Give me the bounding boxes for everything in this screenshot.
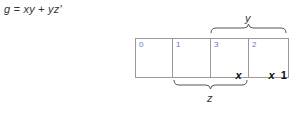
karnaugh-map: 0 1 3 x 2 x 1: [135, 38, 289, 78]
cell-index: 0: [139, 40, 143, 49]
boolean-equation: g = xy + yz': [4, 3, 62, 15]
cell-value-1: 1: [281, 69, 287, 81]
kmap-cell-3: 3 x: [211, 39, 249, 77]
brace-label-y: y: [245, 12, 251, 24]
brace-label-z: z: [207, 92, 213, 104]
kmap-cell-1: 1: [173, 39, 211, 77]
cell-index: 3: [214, 40, 218, 49]
kmap-cell-0: 0: [136, 39, 173, 77]
brace-bottom-z: [173, 80, 248, 90]
brace-top-y: [210, 24, 287, 34]
cell-index: 2: [252, 40, 256, 49]
kmap-cell-2: 2 x 1: [249, 39, 288, 77]
cell-index: 1: [176, 40, 180, 49]
cell-value: x 1: [249, 57, 288, 93]
